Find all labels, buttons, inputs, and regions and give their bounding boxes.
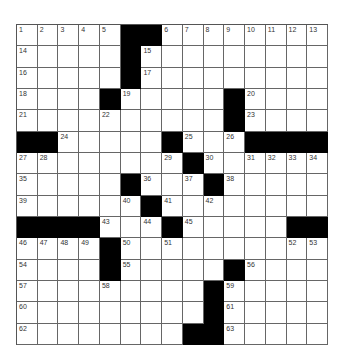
answer-cell[interactable]: 16 — [17, 68, 38, 89]
answer-cell[interactable]: 50 — [121, 238, 142, 259]
answer-cell[interactable] — [162, 68, 183, 89]
answer-cell[interactable]: 39 — [17, 196, 38, 217]
answer-cell[interactable]: 9 — [224, 25, 245, 46]
answer-cell[interactable] — [38, 196, 59, 217]
answer-cell[interactable] — [287, 110, 308, 131]
answer-cell[interactable] — [100, 153, 121, 174]
answer-cell[interactable]: 2 — [38, 25, 59, 46]
answer-cell[interactable] — [79, 260, 100, 281]
answer-cell[interactable]: 53 — [307, 238, 328, 259]
answer-cell[interactable] — [183, 260, 204, 281]
answer-cell[interactable] — [141, 110, 162, 131]
answer-cell[interactable]: 47 — [38, 238, 59, 259]
answer-cell[interactable]: 57 — [17, 281, 38, 302]
answer-cell[interactable] — [79, 68, 100, 89]
answer-cell[interactable] — [141, 302, 162, 323]
answer-cell[interactable] — [245, 238, 266, 259]
answer-cell[interactable] — [141, 153, 162, 174]
answer-cell[interactable] — [100, 68, 121, 89]
answer-cell[interactable]: 27 — [17, 153, 38, 174]
answer-cell[interactable] — [183, 46, 204, 67]
answer-cell[interactable]: 20 — [245, 89, 266, 110]
answer-cell[interactable] — [266, 68, 287, 89]
answer-cell[interactable] — [100, 324, 121, 345]
answer-cell[interactable] — [121, 132, 142, 153]
answer-cell[interactable] — [183, 89, 204, 110]
answer-cell[interactable] — [79, 132, 100, 153]
answer-cell[interactable] — [79, 324, 100, 345]
answer-cell[interactable] — [307, 260, 328, 281]
answer-cell[interactable] — [287, 260, 308, 281]
answer-cell[interactable] — [121, 324, 142, 345]
answer-cell[interactable] — [266, 302, 287, 323]
answer-cell[interactable] — [204, 260, 225, 281]
answer-cell[interactable] — [266, 46, 287, 67]
answer-cell[interactable]: 40 — [121, 196, 142, 217]
answer-cell[interactable] — [307, 68, 328, 89]
answer-cell[interactable] — [245, 217, 266, 238]
answer-cell[interactable] — [204, 46, 225, 67]
answer-cell[interactable] — [79, 89, 100, 110]
answer-cell[interactable] — [183, 196, 204, 217]
answer-cell[interactable] — [141, 260, 162, 281]
answer-cell[interactable] — [58, 174, 79, 195]
answer-cell[interactable] — [38, 260, 59, 281]
answer-cell[interactable] — [100, 302, 121, 323]
answer-cell[interactable] — [100, 174, 121, 195]
answer-cell[interactable] — [307, 302, 328, 323]
answer-cell[interactable] — [58, 302, 79, 323]
answer-cell[interactable]: 25 — [183, 132, 204, 153]
answer-cell[interactable] — [121, 110, 142, 131]
answer-cell[interactable] — [58, 196, 79, 217]
answer-cell[interactable]: 31 — [245, 153, 266, 174]
answer-cell[interactable] — [266, 196, 287, 217]
answer-cell[interactable] — [266, 260, 287, 281]
answer-cell[interactable]: 26 — [224, 132, 245, 153]
answer-cell[interactable]: 36 — [141, 174, 162, 195]
answer-cell[interactable] — [141, 324, 162, 345]
answer-cell[interactable] — [266, 89, 287, 110]
answer-cell[interactable]: 45 — [183, 217, 204, 238]
answer-cell[interactable] — [38, 281, 59, 302]
answer-cell[interactable]: 44 — [141, 217, 162, 238]
answer-cell[interactable]: 32 — [266, 153, 287, 174]
answer-cell[interactable]: 22 — [100, 110, 121, 131]
answer-cell[interactable] — [266, 217, 287, 238]
answer-cell[interactable] — [58, 110, 79, 131]
answer-cell[interactable] — [162, 260, 183, 281]
answer-cell[interactable]: 52 — [287, 238, 308, 259]
answer-cell[interactable] — [266, 281, 287, 302]
answer-cell[interactable]: 12 — [287, 25, 308, 46]
answer-cell[interactable] — [245, 302, 266, 323]
answer-cell[interactable]: 30 — [204, 153, 225, 174]
answer-cell[interactable] — [204, 238, 225, 259]
answer-cell[interactable] — [287, 196, 308, 217]
answer-cell[interactable] — [307, 196, 328, 217]
answer-cell[interactable] — [224, 153, 245, 174]
answer-cell[interactable] — [162, 89, 183, 110]
answer-cell[interactable]: 34 — [307, 153, 328, 174]
answer-cell[interactable]: 15 — [141, 46, 162, 67]
answer-cell[interactable]: 35 — [17, 174, 38, 195]
answer-cell[interactable] — [79, 281, 100, 302]
answer-cell[interactable] — [58, 89, 79, 110]
answer-cell[interactable] — [121, 281, 142, 302]
answer-cell[interactable]: 13 — [307, 25, 328, 46]
answer-cell[interactable] — [224, 68, 245, 89]
answer-cell[interactable] — [245, 68, 266, 89]
answer-cell[interactable] — [307, 324, 328, 345]
answer-cell[interactable]: 37 — [183, 174, 204, 195]
answer-cell[interactable]: 58 — [100, 281, 121, 302]
answer-cell[interactable] — [38, 302, 59, 323]
answer-cell[interactable]: 46 — [17, 238, 38, 259]
answer-cell[interactable]: 56 — [245, 260, 266, 281]
answer-cell[interactable]: 10 — [245, 25, 266, 46]
answer-cell[interactable] — [224, 46, 245, 67]
answer-cell[interactable]: 5 — [100, 25, 121, 46]
answer-cell[interactable] — [79, 302, 100, 323]
answer-cell[interactable] — [162, 174, 183, 195]
answer-cell[interactable] — [183, 302, 204, 323]
answer-cell[interactable]: 63 — [224, 324, 245, 345]
answer-cell[interactable]: 24 — [58, 132, 79, 153]
answer-cell[interactable] — [58, 324, 79, 345]
